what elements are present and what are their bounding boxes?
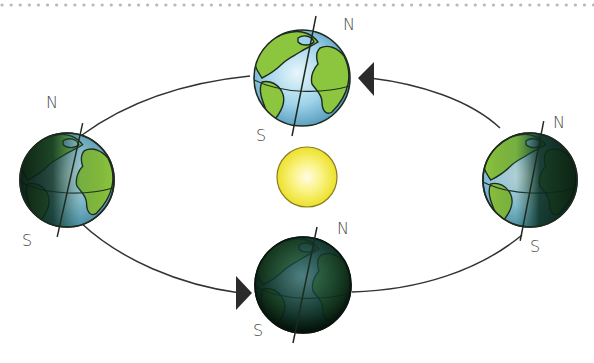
globe-top — [254, 16, 350, 136]
globe-right-north-label: N — [553, 113, 565, 132]
globe-bottom-north-label: N — [337, 219, 349, 238]
orbit-arrow-right-icon — [236, 276, 252, 310]
orbit-arrow-left-icon — [358, 62, 374, 96]
globe-bottom — [255, 227, 351, 343]
globe-top-north-label: N — [343, 15, 355, 34]
sun — [277, 147, 337, 207]
globe-right-south-label: S — [530, 237, 540, 256]
globe-right — [483, 121, 577, 241]
globe-left-south-label: S — [22, 231, 32, 250]
globe-left-north-label: N — [46, 93, 58, 112]
globe-top-south-label: S — [256, 126, 266, 145]
globe-left — [20, 123, 114, 237]
earth-orbit-diagram: N S N S N S N S — [0, 0, 594, 363]
globe-bottom-south-label: S — [253, 321, 263, 340]
